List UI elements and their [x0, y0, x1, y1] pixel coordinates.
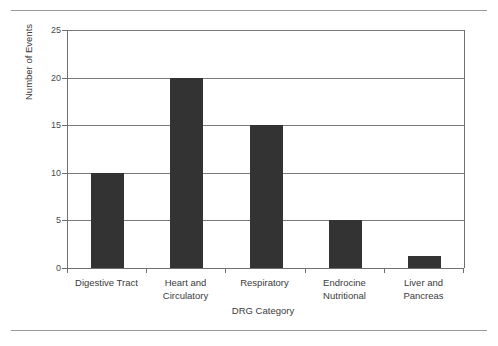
gridline-20 [68, 78, 464, 79]
x-axis-title: DRG Category [0, 305, 498, 316]
x-tick-mark-1 [146, 268, 147, 273]
x-category-label-line: Digestive Tract [61, 277, 152, 290]
y-tick-label-15: 15 [21, 121, 61, 130]
y-tick-label-0: 0 [21, 264, 61, 273]
chart-figure: 0510152025 Digestive TractHeart andCircu… [0, 0, 498, 346]
x-category-label-line: Endrocine [299, 277, 390, 290]
x-category-label-line: Respiratory [219, 277, 310, 290]
x-category-label-4: Liver andPancreas [378, 277, 469, 302]
y-axis-title: Number of Events [23, 0, 34, 100]
page-rule-top-divider [11, 10, 487, 11]
bar-4[interactable] [408, 256, 441, 268]
x-tick-mark-4 [384, 268, 385, 273]
x-tick-mark-edge-5 [463, 268, 464, 273]
bar-2[interactable] [250, 125, 283, 268]
x-tick-mark-3 [305, 268, 306, 273]
y-tick-label-10: 10 [21, 169, 61, 178]
x-category-label-2: Respiratory [219, 277, 310, 290]
x-tick-mark-2 [225, 268, 226, 273]
x-tick-mark-edge-0 [67, 268, 68, 273]
x-category-label-line: Pancreas [378, 290, 469, 303]
x-category-label-1: Heart andCirculatory [140, 277, 231, 302]
gridline-0 [68, 268, 464, 269]
page-rule-bottom-divider [11, 330, 487, 331]
bar-0[interactable] [91, 173, 124, 268]
x-axis-title-text: DRG Category [232, 305, 294, 316]
x-category-label-0: Digestive Tract [61, 277, 152, 290]
x-category-label-line: Circulatory [140, 290, 231, 303]
gridline-25 [68, 30, 464, 31]
bar-1[interactable] [170, 78, 203, 268]
bar-3[interactable] [329, 220, 362, 268]
x-category-label-3: EndrocineNutritional [299, 277, 390, 302]
y-tick-label-5: 5 [21, 216, 61, 225]
x-category-label-line: Nutritional [299, 290, 390, 303]
x-category-label-line: Liver and [378, 277, 469, 290]
plot-area [67, 30, 465, 268]
y-axis-title-text: Number of Events [23, 24, 34, 100]
x-category-label-line: Heart and [140, 277, 231, 290]
